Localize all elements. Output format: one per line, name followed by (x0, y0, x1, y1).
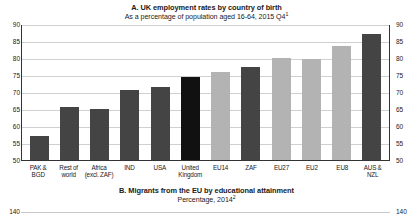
category-label-eu27: EU27 (266, 162, 296, 179)
category-label-line: Africa (84, 164, 114, 171)
category-label-aus-nzl: AUS &NZL (358, 162, 388, 179)
bar-eu8 (332, 46, 351, 160)
category-label-line: (excl. ZAF) (84, 171, 114, 178)
category-label-line: EU8 (327, 164, 357, 171)
category-label-line: IND (114, 164, 144, 171)
category-label-zaf: ZAF (236, 162, 266, 179)
panel-a-plot-area (21, 25, 390, 161)
panel-a-subtitle-footnote-marker: 1 (286, 11, 289, 17)
y-axis-tick-75: 75 (0, 73, 23, 80)
category-label-line: United (175, 164, 205, 171)
bar-rest-of-world (60, 107, 79, 160)
y-axis-tick-60: 60 (393, 124, 413, 131)
y-axis-tick-75: 75 (393, 73, 413, 80)
bar-ind (120, 90, 139, 160)
y-axis-tick-65: 65 (0, 107, 23, 114)
category-label-rest-of-world: Rest ofworld (54, 162, 84, 179)
category-label-usa: USA (145, 162, 175, 179)
category-label-line: AUS & (358, 164, 388, 171)
y-axis-tick-85: 85 (0, 39, 23, 46)
category-label-eu8: EU8 (327, 162, 357, 179)
y-axis-tick-90: 90 (0, 22, 23, 29)
category-label-eu14: EU14 (206, 162, 236, 179)
panel-a-subtitle-text: As a percentage of population aged 16-64… (125, 13, 286, 21)
bar-africa-excl-zaf (90, 109, 109, 160)
category-label-pak-bgd: PAK &BGD (23, 162, 53, 179)
category-label-line: ZAF (236, 164, 266, 171)
panel-a-title: A. UK employment rates by country of bir… (0, 0, 413, 12)
y-axis-tick-60: 60 (0, 124, 23, 131)
y-axis-tick-80: 80 (393, 56, 413, 63)
category-label-line: PAK & (23, 164, 53, 171)
y-axis-tick-85: 85 (393, 39, 413, 46)
category-label-line: Rest of (54, 164, 84, 171)
bar-united-kingdom (181, 77, 200, 160)
category-label-united-kingdom: UnitedKingdom (175, 162, 205, 179)
y-axis-tick-80: 80 (0, 56, 23, 63)
bar-eu27 (272, 58, 291, 160)
panel-a-title-text: A. UK employment rates by country of bir… (131, 3, 282, 12)
category-label-line: EU2 (297, 164, 327, 171)
y-axis-tick-70: 70 (393, 90, 413, 97)
category-label-line: NZL (358, 171, 388, 178)
category-label-ind: IND (114, 162, 144, 179)
y-axis-tick-70: 70 (0, 90, 23, 97)
category-label-line: BGD (23, 171, 53, 178)
bar-usa (151, 87, 170, 160)
y-axis-left: 505560657075808590 (0, 25, 20, 163)
category-label-line: USA (145, 164, 175, 171)
panel-b-subtitle: Percentage, 20142 (0, 195, 413, 205)
panel-b-title-text: B. Migrants from the EU by educational a… (119, 186, 294, 195)
bar-zaf (241, 67, 260, 161)
category-label-line: world (54, 171, 84, 178)
category-label-line: EU27 (266, 164, 296, 171)
x-axis-category-labels: PAK &BGDRest ofworldAfrica(excl. ZAF)IND… (21, 162, 390, 179)
panel-a: A. UK employment rates by country of bir… (0, 0, 413, 163)
category-label-line: EU14 (206, 164, 236, 171)
y-axis-tick-55: 55 (393, 141, 413, 148)
panel-a-subtitle: As a percentage of population aged 16-64… (0, 12, 413, 22)
panel-a-plot-wrapper: 505560657075808590 505560657075808590 PA… (0, 25, 413, 163)
panel-b-subtitle-text: Percentage, 2014 (177, 196, 232, 204)
bar-series (22, 25, 389, 160)
panel-b-y-axis-left-label: 140 (0, 209, 23, 215)
y-axis-tick-90: 90 (393, 22, 413, 29)
category-label-eu2: EU2 (297, 162, 327, 179)
y-axis-tick-50: 50 (393, 158, 413, 165)
y-axis-tick-55: 55 (0, 141, 23, 148)
category-label-africa-excl-zaf: Africa(excl. ZAF) (84, 162, 114, 179)
y-axis-tick-50: 50 (0, 158, 23, 165)
panel-b: B. Migrants from the EU by educational a… (0, 183, 413, 215)
y-axis-tick-65: 65 (393, 107, 413, 114)
category-label-line: Kingdom (175, 171, 205, 178)
bar-aus-nzl (362, 34, 381, 160)
y-axis-right: 505560657075808590 (393, 25, 413, 163)
bar-pak-bgd (30, 136, 49, 160)
panel-b-title: B. Migrants from the EU by educational a… (0, 183, 413, 195)
panel-b-subtitle-footnote-marker: 2 (233, 194, 236, 200)
panel-b-y-axis-right-label: 140 (393, 209, 413, 215)
bar-eu14 (211, 72, 230, 160)
bar-eu2 (302, 59, 321, 160)
panel-b-plot-area (21, 212, 390, 215)
